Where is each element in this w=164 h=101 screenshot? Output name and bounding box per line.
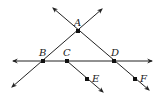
- point-a: [76, 29, 80, 33]
- label-a: A: [73, 17, 81, 28]
- point-e: [85, 77, 89, 81]
- geometry-diagram: A B C D E F: [0, 0, 164, 101]
- label-b: B: [38, 47, 46, 58]
- point-b: [41, 59, 45, 63]
- label-c: C: [63, 47, 71, 58]
- label-e: E: [91, 73, 100, 84]
- label-d: D: [110, 47, 119, 58]
- line-ab: [12, 9, 102, 87]
- label-f: F: [139, 73, 148, 84]
- point-c: [65, 59, 69, 63]
- point-f: [133, 77, 137, 81]
- point-d: [112, 59, 116, 63]
